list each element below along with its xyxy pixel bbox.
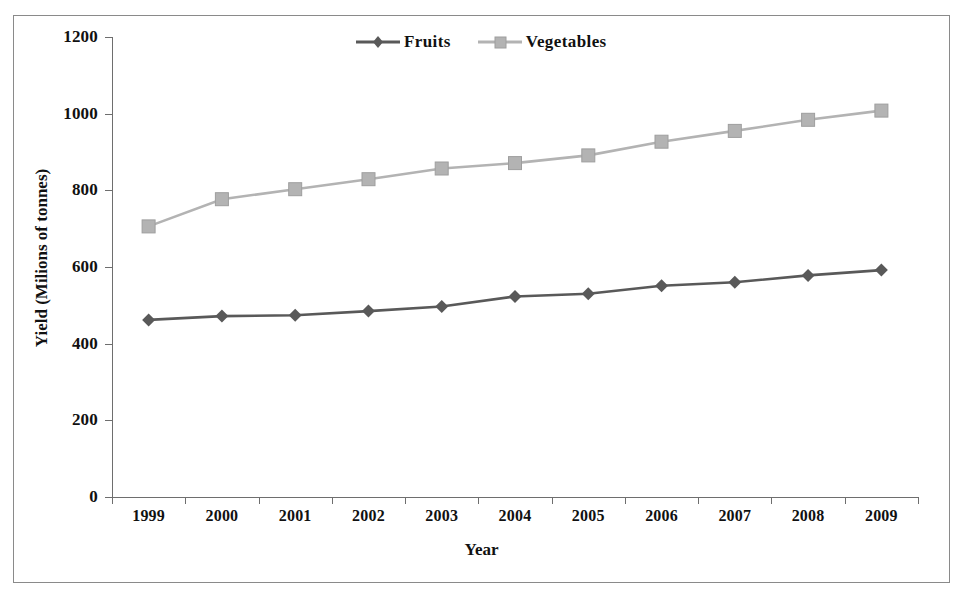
data-point-marker [289, 309, 302, 322]
x-axis-tick [698, 497, 699, 504]
y-axis-tick-label: 200 [28, 411, 98, 428]
data-point-marker [362, 173, 375, 186]
x-axis-tick [112, 497, 113, 504]
x-axis-tick-label: 2004 [475, 508, 555, 524]
data-point-marker [509, 290, 522, 303]
data-point-marker [362, 305, 375, 318]
y-axis-tick [105, 114, 112, 115]
x-axis-tick [185, 497, 186, 504]
series-canvas [112, 37, 918, 497]
x-axis-tick [552, 497, 553, 504]
x-axis-line [112, 497, 919, 498]
y-axis-tick [105, 37, 112, 38]
y-axis-tick [105, 267, 112, 268]
data-point-marker [435, 162, 448, 175]
x-axis-title: Year [0, 540, 963, 560]
y-axis-tick-label: 0 [28, 488, 98, 505]
x-axis-tick-label: 2008 [768, 508, 848, 524]
data-point-marker [728, 276, 741, 289]
data-point-marker [582, 287, 595, 300]
x-axis-tick-label: 2002 [328, 508, 408, 524]
data-point-marker [435, 300, 448, 313]
data-point-marker [215, 193, 228, 206]
data-point-marker [655, 135, 668, 148]
x-axis-tick [625, 497, 626, 504]
y-axis-tick-label: 1200 [28, 28, 98, 45]
data-point-marker [875, 104, 888, 117]
y-axis-tick [105, 344, 112, 345]
data-point-marker [509, 157, 522, 170]
y-axis-title: Yield (Milions of tonnes) [32, 108, 52, 408]
x-axis-tick-label: 2005 [548, 508, 628, 524]
x-axis-tick-label: 2009 [841, 508, 921, 524]
x-axis-tick-label: 2007 [695, 508, 775, 524]
x-axis-tick-label: 2003 [402, 508, 482, 524]
x-axis-tick [405, 497, 406, 504]
y-axis-tick [105, 497, 112, 498]
data-point-marker [215, 310, 228, 323]
data-point-marker [142, 220, 155, 233]
data-point-marker [875, 264, 888, 277]
x-axis-tick-label: 2006 [622, 508, 702, 524]
x-axis-tick-label: 1999 [109, 508, 189, 524]
plot-area [112, 37, 918, 497]
series-vegetables [142, 104, 888, 233]
x-axis-tick [771, 497, 772, 504]
data-point-marker [802, 113, 815, 126]
series-fruits [142, 264, 888, 327]
data-point-marker [655, 279, 668, 292]
data-point-marker [142, 313, 155, 326]
chart-figure: Fruits Vegetables 020040060080010001200 … [0, 0, 963, 604]
x-axis-tick-label: 2001 [255, 508, 335, 524]
data-point-marker [582, 149, 595, 162]
data-point-marker [802, 269, 815, 282]
x-axis-tick [478, 497, 479, 504]
x-axis-tick [918, 497, 919, 504]
data-point-marker [728, 124, 741, 137]
y-axis-tick [105, 190, 112, 191]
x-axis-tick-label: 2000 [182, 508, 262, 524]
x-axis-tick [332, 497, 333, 504]
x-axis-tick [259, 497, 260, 504]
x-axis-tick [845, 497, 846, 504]
y-axis-tick [105, 420, 112, 421]
data-point-marker [289, 183, 302, 196]
